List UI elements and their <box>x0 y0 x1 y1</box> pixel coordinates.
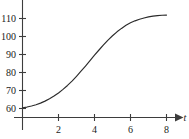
y-tick-label-90: 90 <box>6 49 16 60</box>
y-tick-label-70: 70 <box>6 85 16 96</box>
chart-plot-area: 110 100 90 80 70 60 2 4 6 8 t <box>0 0 189 139</box>
y-tick-label-60: 60 <box>6 103 16 114</box>
y-tick-label-80: 80 <box>6 67 16 78</box>
x-tick-label-8: 8 <box>164 124 169 135</box>
x-axis-label: t <box>184 112 187 123</box>
y-tick-label-100: 100 <box>1 31 16 42</box>
x-tick-label-2: 2 <box>56 124 61 135</box>
x-tick-label-4: 4 <box>92 124 97 135</box>
y-tick-label-110: 110 <box>1 13 16 24</box>
x-axis-arrow-icon <box>175 114 184 122</box>
chart-figure: 110 100 90 80 70 60 2 4 6 8 t <box>0 0 189 139</box>
data-series-curve <box>23 15 167 108</box>
x-tick-label-6: 6 <box>128 124 133 135</box>
